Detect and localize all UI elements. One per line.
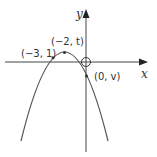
vertex-label: (−2, t) <box>51 36 84 47</box>
y-axis-arrow-icon <box>83 9 90 18</box>
vertex-point <box>63 51 66 54</box>
x-axis-arrow-icon <box>139 59 148 66</box>
y-axis-label: y <box>75 7 83 21</box>
point-label-minus3-1: (−3, 1) <box>21 48 56 59</box>
y-intercept-point <box>85 75 88 78</box>
parabola-diagram: (−3, 1) (−2, t) (0, v) x y <box>0 0 157 157</box>
x-axis-label: x <box>141 67 148 81</box>
y-intercept-label: (0, v) <box>94 71 121 82</box>
diagram-canvas: (−3, 1) (−2, t) (0, v) x y <box>0 0 157 157</box>
parabola-curve <box>21 52 108 141</box>
